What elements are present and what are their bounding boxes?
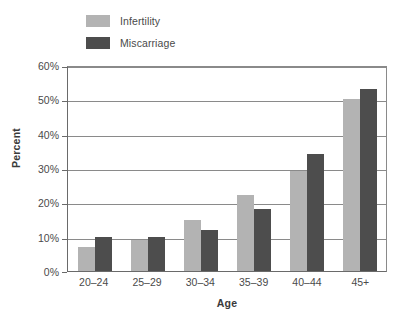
bar-miscarriage	[254, 209, 271, 271]
legend-label-miscarriage: Miscarriage	[120, 37, 175, 49]
y-axis-tick	[62, 204, 67, 205]
legend-item-infertility: Infertility	[86, 12, 175, 29]
y-axis-tick	[62, 136, 67, 137]
bar-infertility	[184, 220, 201, 272]
y-axis-tick	[62, 170, 67, 171]
y-axis-tick-label: 0%	[44, 266, 59, 278]
bar-infertility	[131, 240, 148, 271]
y-axis-title: Percent	[10, 108, 22, 188]
bar-groups	[68, 67, 386, 271]
bar-group	[131, 67, 165, 271]
x-axis-tick-label: 20–24	[67, 276, 120, 288]
y-axis-tick-label: 30%	[38, 163, 59, 175]
bar-miscarriage	[95, 237, 112, 271]
bar-infertility	[290, 171, 307, 271]
bar-infertility	[237, 195, 254, 271]
bar-miscarriage	[360, 89, 377, 271]
plot-area	[67, 66, 387, 272]
legend-label-infertility: Infertility	[120, 15, 160, 27]
bar-infertility	[343, 99, 360, 271]
x-axis-tick-label: 35–39	[227, 276, 280, 288]
y-axis-tick	[62, 272, 67, 273]
bar-group	[290, 67, 324, 271]
bar-infertility	[78, 247, 95, 271]
bar-group	[78, 67, 112, 271]
x-axis-tick-label: 25–29	[120, 276, 173, 288]
x-axis-tick-label: 40–44	[280, 276, 333, 288]
bar-miscarriage	[307, 154, 324, 271]
legend-item-miscarriage: Miscarriage	[86, 34, 175, 51]
x-axis-title: Age	[67, 297, 387, 309]
x-axis-tick-label: 45+	[334, 276, 387, 288]
y-axis-tick-label: 50%	[38, 94, 59, 106]
bar-group	[184, 67, 218, 271]
bar-group	[237, 67, 271, 271]
y-axis-tick	[62, 67, 67, 68]
legend-swatch-miscarriage	[86, 37, 110, 49]
y-axis-tick	[62, 239, 67, 240]
bar-group	[343, 67, 377, 271]
y-axis-tick	[62, 101, 67, 102]
x-axis-tick-label: 30–34	[174, 276, 227, 288]
y-axis-tick-label: 10%	[38, 232, 59, 244]
y-axis-tick-labels: 0%10%20%30%40%50%60%	[0, 66, 59, 272]
y-axis-tick-label: 40%	[38, 129, 59, 141]
bar-miscarriage	[201, 230, 218, 271]
y-axis-tick-label: 60%	[38, 60, 59, 72]
y-axis-tick-label: 20%	[38, 197, 59, 209]
bar-miscarriage	[148, 237, 165, 271]
chart-legend: Infertility Miscarriage	[86, 12, 175, 56]
legend-swatch-infertility	[86, 15, 110, 27]
x-axis-tick-labels: 20–2425–2930–3435–3940–4445+	[67, 276, 387, 288]
